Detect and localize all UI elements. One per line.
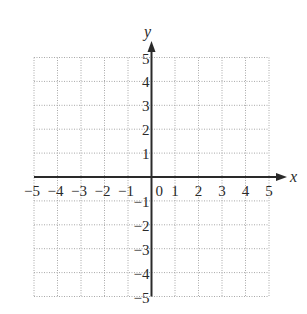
coordinate-plane: −5−4−3−2−1012345−5−4−3−2−112345 x y (0, 0, 307, 314)
y-tick-label: −2 (134, 218, 150, 234)
x-tick-label: 1 (171, 183, 179, 199)
x-axis-label: x (289, 168, 297, 185)
y-tick-label: 3 (142, 98, 150, 114)
y-tick-label: 5 (142, 51, 150, 67)
x-tick-label: −5 (24, 183, 40, 199)
x-tick-label: 4 (242, 183, 250, 199)
y-axis-label: y (142, 23, 152, 41)
y-tick-label: 1 (142, 146, 150, 162)
x-tick-label: 2 (195, 183, 203, 199)
x-tick-label: 0 (156, 183, 164, 199)
axes (34, 41, 287, 297)
y-tick-label: −4 (134, 266, 150, 282)
y-tick-label: 4 (142, 74, 150, 90)
x-tick-label: −1 (118, 183, 134, 199)
x-tick-label: −2 (95, 183, 111, 199)
y-tick-label: −1 (134, 194, 150, 210)
x-tick-label: −4 (48, 183, 64, 199)
x-axis-arrow-icon (276, 173, 287, 181)
x-tick-label: 3 (218, 183, 226, 199)
y-tick-label: −3 (134, 242, 150, 258)
y-tick-label: −5 (134, 290, 150, 306)
y-tick-label: 2 (142, 122, 150, 138)
x-tick-label: 5 (265, 183, 273, 199)
x-tick-label: −3 (71, 183, 87, 199)
